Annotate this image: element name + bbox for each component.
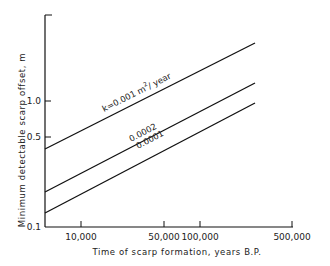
y-tick-label: 1.0 [27, 96, 42, 106]
x-tick-label: 10,000 [65, 232, 97, 242]
chart: 1.0 0.5 0.1 10,000 50,000 100,000 500,00… [0, 0, 330, 266]
y-tick-label: 0.1 [27, 222, 41, 232]
series-label-k0001: k=0.001 m2/ year [99, 69, 172, 114]
series-line-k00001 [45, 103, 255, 213]
x-axis: 10,000 50,000 100,000 500,000 [45, 221, 311, 242]
x-tick-label: 500,000 [273, 232, 310, 242]
y-axis: 1.0 0.5 0.1 [27, 15, 52, 232]
x-axis-title: Time of scarp formation, years B.P. [91, 247, 261, 257]
x-tick-label: 100,000 [181, 232, 218, 242]
y-axis-title: Minimum detectable scarp offset, m [17, 53, 27, 227]
svg-text:k=0.001 m2/ year: k=0.001 m2/ year [99, 69, 172, 114]
y-tick-label: 0.5 [27, 132, 41, 142]
x-tick-label: 50,000 [148, 232, 180, 242]
